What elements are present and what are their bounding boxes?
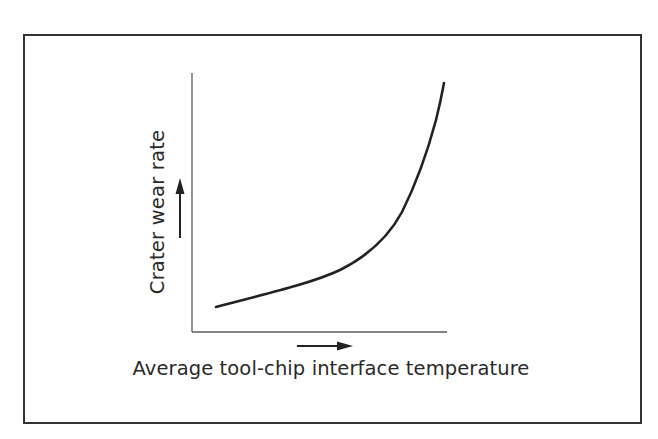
arrow-up-icon [176, 178, 185, 238]
x-axis-label: Average tool-chip interface temperature [133, 357, 530, 380]
wear-rate-curve [216, 83, 444, 307]
arrow-right-icon [297, 342, 353, 351]
y-axis-label: Crater wear rate [146, 130, 169, 294]
